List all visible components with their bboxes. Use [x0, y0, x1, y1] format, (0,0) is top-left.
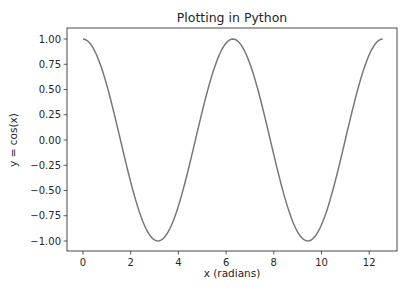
y-tick-label: −0.75 [30, 210, 61, 221]
x-tick-label: 0 [80, 257, 86, 268]
cosine-chart: Plotting in Python 1.000.750.500.250.00−… [0, 0, 407, 293]
cosine-line [83, 39, 383, 241]
y-tick-label: 0.00 [39, 135, 61, 146]
chart-title: Plotting in Python [177, 10, 287, 25]
y-tick-label: 0.50 [39, 84, 61, 95]
y-tick-label: 0.25 [39, 109, 61, 120]
y-tick-label: −0.25 [30, 160, 61, 171]
axes-frame [67, 28, 397, 251]
y-axis-label: y = cos(x) [7, 113, 19, 167]
x-tick-label: 4 [175, 257, 181, 268]
y-tick-label: −1.00 [30, 236, 61, 247]
y-tick-label: 0.75 [39, 59, 61, 70]
x-axis-ticks: 024681012 [80, 251, 376, 268]
x-tick-label: 8 [271, 257, 277, 268]
x-axis-label: x (radians) [204, 267, 261, 279]
y-tick-label: −0.50 [30, 185, 61, 196]
y-axis-ticks: 1.000.750.500.250.00−0.25−0.50−0.75−1.00 [30, 34, 67, 247]
x-tick-label: 10 [315, 257, 328, 268]
y-tick-label: 1.00 [39, 34, 61, 45]
x-tick-label: 12 [363, 257, 376, 268]
x-tick-label: 2 [128, 257, 134, 268]
